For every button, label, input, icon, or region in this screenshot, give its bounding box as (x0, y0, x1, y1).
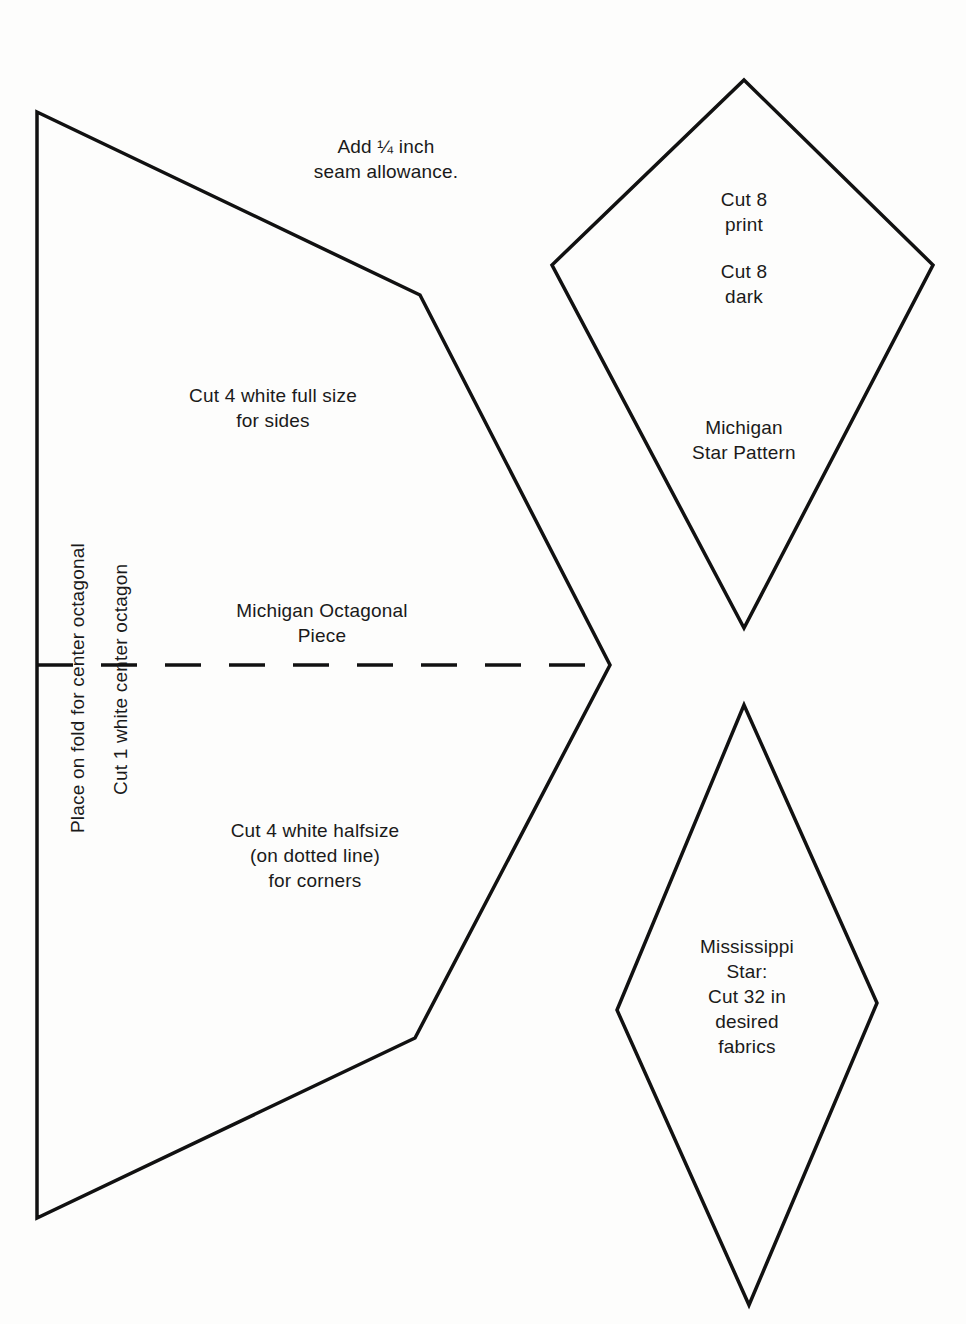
octagonal-piece-title: Michigan Octagonal Piece (200, 598, 444, 648)
michigan-dark-instruction: Cut 8 dark (680, 259, 808, 309)
seam-note-line-2: seam allowance. (296, 159, 476, 184)
center-octagon-instruction: Cut 1 white center octagon (110, 564, 132, 795)
michigan-star-title: Michigan Star Pattern (670, 415, 818, 465)
pattern-shapes (0, 0, 966, 1324)
mississippi-star-text: Mississippi Star: Cut 32 in desired fabr… (677, 934, 817, 1059)
michigan-print-instruction: Cut 8 print (680, 187, 808, 237)
half-size-instruction: Cut 4 white halfsize (on dotted line) fo… (195, 818, 435, 893)
michigan-star-kite-outline (552, 80, 933, 628)
seam-allowance-note: Add ¼ inch seam allowance. (296, 134, 476, 184)
fold-instruction: Place on fold for center octagonal (67, 543, 89, 833)
seam-note-line-1: Add ¼ inch (296, 134, 476, 159)
full-size-instruction: Cut 4 white full size for sides (160, 383, 386, 433)
